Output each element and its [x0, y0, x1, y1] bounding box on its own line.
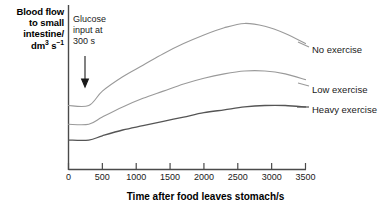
x-tick-label-2000: 2000: [194, 172, 214, 182]
legend-leader-lines: [297, 42, 309, 107]
x-axis-title: Time after food leaves stomach/s: [0, 191, 383, 202]
chart-figure: Blood flow to small intestine/ dm3 s−1 G…: [0, 0, 383, 213]
x-tick-label-1000: 1000: [126, 172, 146, 182]
axes: [69, 5, 307, 170]
series-label-low-exercise: Low exercise: [312, 84, 367, 95]
data-series: [69, 23, 306, 140]
series-label-no-exercise: No exercise: [312, 44, 362, 55]
x-axis-ticks: [69, 163, 306, 170]
x-tick-label-500: 500: [95, 172, 110, 182]
series-label-heavy-exercise: Heavy exercise: [312, 104, 377, 115]
series-line-heavy-exercise: [69, 105, 306, 140]
x-tick-label-3000: 3000: [262, 172, 282, 182]
x-tick-label-0: 0: [66, 172, 71, 182]
x-tick-label-1500: 1500: [160, 172, 180, 182]
glucose-arrow-icon: [82, 56, 89, 87]
x-tick-label-3500: 3500: [295, 172, 315, 182]
series-line-no-exercise: [69, 23, 306, 106]
leader-low-exercise: [298, 83, 309, 86]
x-tick-label-2500: 2500: [228, 172, 248, 182]
